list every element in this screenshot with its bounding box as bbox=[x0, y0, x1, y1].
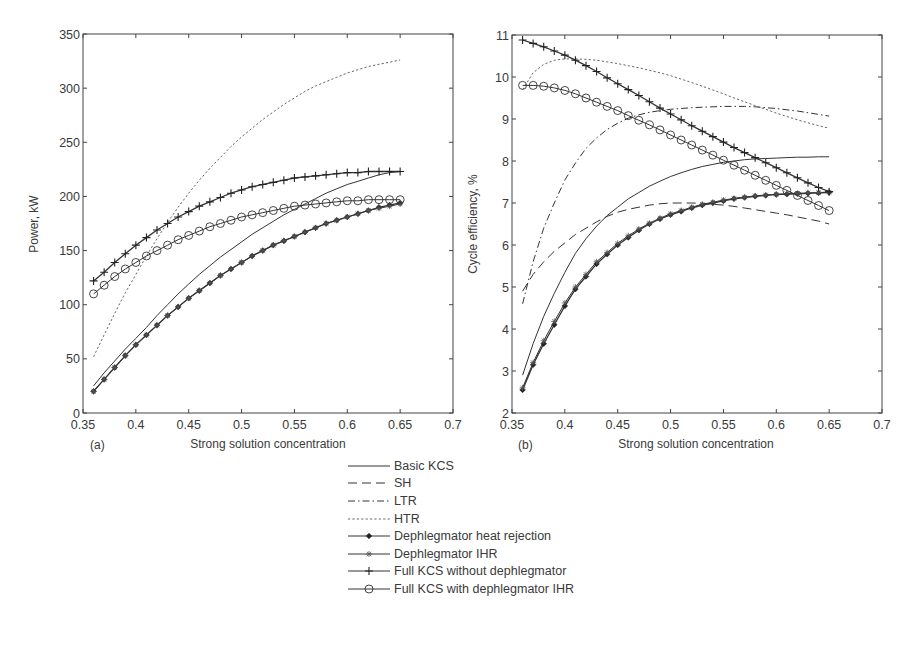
star-marker-icon bbox=[615, 240, 621, 246]
star-marker-icon bbox=[742, 194, 748, 200]
star-marker-icon bbox=[773, 191, 779, 197]
star-marker-icon bbox=[323, 221, 329, 227]
legend-label: LTR bbox=[394, 494, 417, 508]
legend-item: Dephlegmator heat rejection bbox=[346, 527, 574, 545]
legend-label: Full KCS with dephlegmator IHR bbox=[394, 582, 574, 596]
star-marker-icon bbox=[763, 192, 769, 198]
star-marker-icon bbox=[805, 190, 811, 196]
y-tick-label: 4 bbox=[502, 323, 509, 337]
chart-panel-b: 0.350.40.450.50.550.60.650.7234567891011… bbox=[466, 29, 891, 453]
x-axis-label-b: Strong solution concentration bbox=[618, 437, 773, 451]
legend-swatch-icon bbox=[346, 477, 392, 489]
star-marker-icon bbox=[646, 220, 652, 226]
x-tick-label: 0.5 bbox=[233, 418, 250, 432]
y-tick-label: 50 bbox=[66, 352, 80, 366]
star-marker-icon bbox=[365, 208, 371, 214]
star-marker-icon bbox=[551, 318, 557, 324]
star-marker-icon bbox=[122, 353, 128, 359]
legend-item: LTR bbox=[346, 492, 574, 510]
star-marker-icon bbox=[91, 388, 97, 394]
x-tick-label: 0.6 bbox=[339, 418, 356, 432]
star-marker-icon bbox=[207, 280, 213, 286]
star-marker-icon bbox=[657, 215, 663, 221]
legend-item: Full KCS with dephlegmator IHR bbox=[346, 580, 574, 598]
star-marker-icon bbox=[217, 272, 223, 278]
x-tick-label: 0.7 bbox=[444, 418, 461, 432]
star-marker-icon bbox=[154, 322, 160, 328]
legend-swatch-icon bbox=[346, 495, 392, 507]
star-marker-icon bbox=[334, 217, 340, 223]
star-marker-icon bbox=[291, 233, 297, 239]
y-tick-label: 100 bbox=[59, 298, 80, 312]
legend: Basic KCS SH LTR HTR Dephlegmator heat r… bbox=[346, 457, 574, 598]
star-marker-icon bbox=[344, 214, 350, 220]
legend-swatch-icon bbox=[346, 513, 392, 525]
legend-label: SH bbox=[394, 476, 411, 490]
star-marker-icon bbox=[720, 197, 726, 203]
star-marker-icon bbox=[699, 201, 705, 207]
star-marker-icon bbox=[101, 376, 107, 382]
star-marker-icon bbox=[165, 313, 171, 319]
y-tick-label: 3 bbox=[502, 365, 509, 379]
star-marker-icon bbox=[249, 253, 255, 259]
plot-area-a bbox=[83, 34, 453, 413]
star-marker-icon bbox=[636, 226, 642, 232]
star-marker-icon bbox=[112, 365, 118, 371]
x-tick-label: 0.5 bbox=[662, 418, 679, 432]
legend-swatch-icon bbox=[346, 565, 392, 577]
star-marker-icon bbox=[281, 238, 287, 244]
star-marker-icon bbox=[175, 304, 181, 310]
y-tick-label: 8 bbox=[502, 155, 509, 169]
star-marker-icon bbox=[604, 250, 610, 256]
x-tick-label: 0.6 bbox=[768, 418, 785, 432]
y-tick-label: 300 bbox=[59, 82, 80, 96]
x-tick-label: 0.4 bbox=[556, 418, 573, 432]
star-marker-icon bbox=[541, 338, 547, 344]
y-tick-label: 2 bbox=[502, 407, 509, 421]
star-marker-icon bbox=[689, 204, 695, 210]
star-marker-icon bbox=[270, 242, 276, 248]
legend-item: Dephlegmator IHR bbox=[346, 545, 574, 563]
diamond-marker-icon bbox=[366, 533, 372, 539]
star-marker-icon bbox=[196, 288, 202, 294]
star-marker-icon bbox=[594, 259, 600, 265]
legend-item: SH bbox=[346, 475, 574, 493]
x-tick-label: 0.45 bbox=[606, 418, 630, 432]
star-marker-icon bbox=[572, 284, 578, 290]
legend-item: Basic KCS bbox=[346, 457, 574, 475]
star-marker-icon bbox=[143, 332, 149, 338]
y-tick-label: 10 bbox=[495, 71, 509, 85]
y-tick-label: 0 bbox=[73, 407, 80, 421]
x-tick-label: 0.45 bbox=[177, 418, 201, 432]
star-marker-icon bbox=[260, 248, 266, 254]
legend-label: Dephlegmator heat rejection bbox=[394, 529, 551, 543]
star-marker-icon bbox=[625, 233, 631, 239]
legend-label: Basic KCS bbox=[394, 459, 454, 473]
star-marker-icon bbox=[731, 195, 737, 201]
star-marker-icon bbox=[583, 271, 589, 277]
y-tick-label: 250 bbox=[59, 136, 80, 150]
star-marker-icon bbox=[752, 193, 758, 199]
y-axis-label-a: Power, kW bbox=[27, 195, 41, 253]
y-tick-label: 11 bbox=[496, 29, 509, 43]
legend-label: Dephlegmator IHR bbox=[394, 547, 498, 561]
plus-marker-icon bbox=[365, 567, 373, 575]
star-marker-icon bbox=[239, 259, 245, 265]
star-marker-icon bbox=[520, 385, 526, 391]
legend-swatch-icon bbox=[346, 530, 392, 542]
x-axis-label-a: Strong solution concentration bbox=[190, 437, 345, 451]
legend-swatch-icon bbox=[346, 583, 392, 595]
legend-item: Full KCS without dephlegmator bbox=[346, 563, 574, 581]
star-marker-icon bbox=[562, 300, 568, 306]
legend-swatch-icon bbox=[346, 460, 392, 472]
star-marker-icon bbox=[228, 266, 234, 272]
legend-item: HTR bbox=[346, 510, 574, 528]
star-marker-icon bbox=[366, 551, 372, 557]
star-marker-icon bbox=[133, 342, 139, 348]
star-marker-icon bbox=[376, 205, 382, 211]
legend-swatch-icon bbox=[346, 548, 392, 560]
x-tick-label: 0.65 bbox=[817, 418, 841, 432]
y-tick-label: 9 bbox=[502, 113, 509, 127]
y-axis-label-b: Cycle efficiency, % bbox=[466, 174, 480, 274]
x-tick-label: 0.55 bbox=[282, 418, 306, 432]
